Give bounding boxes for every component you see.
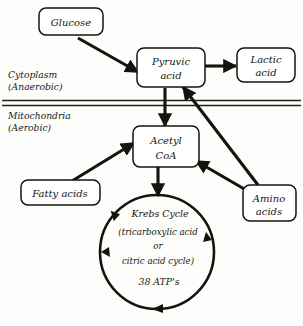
arrow-glucose-to-pyruvic — [78, 38, 138, 72]
krebs-cycle-line2: (tricarboxylic acid — [118, 227, 198, 237]
arrow-fatty-acids-to-acetyl-coa — [72, 143, 134, 181]
node-label-lactic-acid-line1: Lactic — [249, 54, 281, 65]
node-label-pyruvic-acid-line2: acid — [160, 70, 181, 81]
krebs-cycle-line1: Krebs Cycle — [130, 208, 189, 219]
node-label-acetyl-coa-line1: Acetyl — [149, 135, 182, 146]
node-label-amino-acids-line1: Amino — [252, 193, 285, 204]
diagram-canvas: Glucose Pyruvic acid Lactic acid Acetyl … — [0, 0, 303, 326]
compartment-label-mitochondria-line1: Mitochondria — [7, 110, 71, 121]
krebs-cycle-line3: or — [153, 241, 163, 251]
krebs-cycle-line4: citric acid cycle) — [122, 256, 194, 266]
node-label-glucose: Glucose — [51, 17, 91, 28]
node-label-amino-acids-line2: acids — [256, 206, 282, 217]
cell-membrane-divider — [2, 101, 301, 106]
compartment-label-cytoplasm-line2: (Anaerobic) — [8, 81, 63, 92]
compartment-label-cytoplasm-line1: Cytoplasm — [8, 69, 57, 80]
arrow-amino-acids-to-acetyl-coa — [196, 161, 246, 190]
krebs-cycle-line5: 38 ATP's — [138, 276, 179, 287]
node-label-lactic-acid-line2: acid — [255, 67, 276, 78]
node-label-acetyl-coa-line2: CoA — [156, 150, 177, 161]
node-label-fatty-acids: Fatty acids — [31, 188, 87, 199]
node-label-pyruvic-acid-line1: Pyruvic — [151, 56, 190, 67]
node-pyruvic-acid[interactable] — [137, 48, 205, 87]
compartment-label-mitochondria-line2: (Aerobic) — [8, 122, 52, 133]
